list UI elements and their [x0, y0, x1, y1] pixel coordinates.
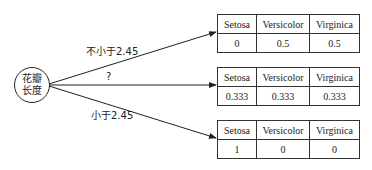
- root-node-line2: 长度: [22, 85, 42, 97]
- header-setosa: Setosa: [218, 68, 257, 87]
- table-value-row: 1 0 0: [218, 140, 360, 159]
- table-value-row: 0 0.5 0.5: [218, 34, 360, 53]
- value-setosa: 0.333: [218, 87, 257, 106]
- value-setosa: 1: [218, 140, 257, 159]
- header-virginica: Virginica: [310, 68, 360, 87]
- leaf-table-middle: Setosa Versicolor Virginica 0.333 0.333 …: [217, 67, 360, 106]
- header-setosa: Setosa: [218, 121, 257, 140]
- edge-arrow-top: [49, 32, 216, 84]
- header-versicolor: Versicolor: [257, 68, 310, 87]
- value-versicolor: 0.333: [257, 87, 310, 106]
- table-header-row: Setosa Versicolor Virginica: [218, 121, 360, 140]
- root-node-line1: 花瓣: [22, 73, 42, 85]
- leaf-table-bottom: Setosa Versicolor Virginica 1 0 0: [217, 120, 360, 159]
- value-versicolor: 0.5: [257, 34, 310, 53]
- header-versicolor: Versicolor: [257, 15, 310, 34]
- leaf-table-top: Setosa Versicolor Virginica 0 0.5 0.5: [217, 14, 360, 53]
- value-virginica: 0: [310, 140, 360, 159]
- header-setosa: Setosa: [218, 15, 257, 34]
- value-versicolor: 0: [257, 140, 310, 159]
- table-value-row: 0.333 0.333 0.333: [218, 87, 360, 106]
- root-node-petal-length: 花瓣 长度: [14, 67, 50, 103]
- table-header-row: Setosa Versicolor Virginica: [218, 68, 360, 87]
- header-virginica: Virginica: [310, 15, 360, 34]
- value-virginica: 0.5: [310, 34, 360, 53]
- value-setosa: 0: [218, 34, 257, 53]
- edge-label-bottom: 小于2.45: [91, 107, 133, 122]
- header-virginica: Virginica: [310, 121, 360, 140]
- edge-label-middle: ?: [106, 71, 111, 82]
- header-versicolor: Versicolor: [257, 121, 310, 140]
- edge-label-top: 不小于2.45: [86, 43, 138, 58]
- table-header-row: Setosa Versicolor Virginica: [218, 15, 360, 34]
- value-virginica: 0.333: [310, 87, 360, 106]
